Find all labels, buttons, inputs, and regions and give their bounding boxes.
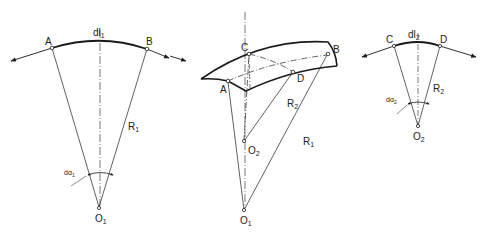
left-tangent-arrow-right (147, 49, 169, 58)
middle-label-r2: R2 (287, 98, 298, 110)
diagram-canvas: A B dl1 R1 dα1 O1 C B A D (0, 0, 486, 233)
middle-radius1-a (228, 82, 244, 210)
middle-label-c: C (241, 42, 248, 53)
right-arc-dl2 (394, 42, 440, 46)
left-label-b: B (146, 36, 153, 47)
right-label-c: C (386, 34, 393, 45)
left-point-o1 (97, 206, 100, 209)
middle-label-o2: O2 (248, 145, 260, 157)
middle-radius2-d (244, 72, 293, 141)
middle-curve-ab (228, 55, 327, 81)
middle-point-a (226, 79, 230, 83)
middle-point-o2 (242, 139, 245, 142)
left-arc-dl1 (52, 41, 147, 49)
right-angle-leader (397, 105, 407, 114)
right-figure: C D dl2 R2 dα2 O2 (362, 29, 476, 143)
middle-label-a: A (220, 84, 227, 95)
middle-pointer-arrow (170, 56, 186, 61)
middle-label-r1: R1 (303, 136, 314, 148)
middle-point-d (291, 70, 295, 74)
left-label-o1: O1 (95, 213, 107, 225)
right-label-dalpha2: dα2 (386, 96, 397, 105)
right-point-o2 (416, 124, 419, 127)
left-label-dl1: dl1 (93, 27, 105, 39)
left-radius-b (99, 49, 147, 207)
right-label-d: D (440, 34, 447, 45)
middle-surface-top-edge (201, 42, 337, 79)
right-radius-c (394, 46, 418, 126)
right-tangent-arrow-left (362, 46, 394, 57)
middle-curve-cd (249, 54, 293, 72)
middle-label-b: B (333, 44, 340, 55)
left-angle-leader (71, 176, 86, 186)
middle-figure: C B A D R2 R1 O2 O1 (170, 12, 340, 227)
left-label-r1: R1 (128, 121, 139, 133)
middle-point-o1 (242, 208, 245, 211)
middle-label-o1: O1 (240, 215, 252, 227)
left-label-dalpha1: dα1 (64, 169, 75, 178)
left-figure: A B dl1 R1 dα1 O1 (11, 27, 169, 225)
right-tangent-arrow-right (440, 46, 476, 57)
left-tangent-arrow-left (11, 48, 52, 61)
left-point-b (145, 47, 149, 51)
middle-radius1-b (244, 55, 327, 210)
left-label-a: A (45, 36, 52, 47)
right-label-o2: O2 (413, 131, 425, 143)
middle-edge-c-down (249, 54, 250, 88)
middle-label-d: D (297, 73, 304, 84)
middle-point-b (326, 52, 330, 56)
curvature-diagram: A B dl1 R1 dα1 O1 C B A D (0, 0, 486, 233)
right-label-dl2: dl2 (408, 29, 420, 41)
right-label-r2: R2 (433, 83, 444, 95)
